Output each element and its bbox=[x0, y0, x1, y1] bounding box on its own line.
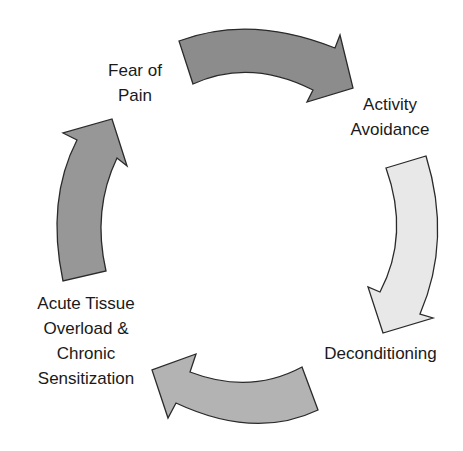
node-activity-avoidance: Activity Avoidance bbox=[335, 92, 445, 142]
node-fear-of-pain: Fear of Pain bbox=[85, 58, 185, 108]
node-activity-line-2: Avoidance bbox=[335, 117, 445, 142]
node-acute-line-1: Acute Tissue bbox=[16, 291, 156, 316]
arrow-decond-to-acute bbox=[152, 354, 318, 423]
node-deconditioning: Deconditioning bbox=[308, 341, 453, 366]
arrow-acute-to-fear bbox=[57, 119, 127, 281]
node-activity-line-1: Activity bbox=[335, 92, 445, 117]
arrow-activity-to-decond bbox=[368, 156, 438, 333]
node-acute-line-3: Chronic bbox=[16, 341, 156, 366]
node-acute-line-2: Overload & bbox=[16, 316, 156, 341]
arrow-fear-to-activity bbox=[179, 29, 353, 102]
node-fear-line-2: Pain bbox=[85, 83, 185, 108]
node-fear-line-1: Fear of bbox=[85, 58, 185, 83]
node-acute-line-4: Sensitization bbox=[16, 366, 156, 391]
node-acute-tissue-overload: Acute Tissue Overload & Chronic Sensitiz… bbox=[16, 291, 156, 391]
node-decond-line-1: Deconditioning bbox=[308, 341, 453, 366]
